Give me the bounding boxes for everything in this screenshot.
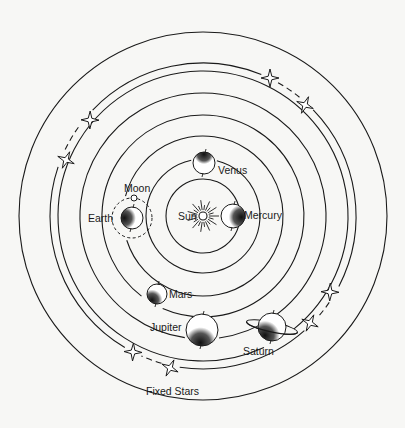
star-icon	[321, 283, 339, 301]
sun-ray	[198, 206, 200, 211]
mars-label: Mars	[169, 288, 192, 300]
fixed-stars-label: Fixed Stars	[146, 385, 199, 397]
saturn-label: Saturn	[243, 345, 274, 357]
sun-ray	[209, 218, 214, 219]
mercury-label: Mercury	[244, 209, 283, 221]
fixed-stars-sphere	[93, 63, 262, 110]
star-icon	[297, 97, 314, 114]
moon-label: Moon	[124, 182, 150, 194]
sun-ray	[204, 205, 205, 210]
fixed-stars-sphere	[313, 110, 356, 287]
star-icon	[162, 360, 178, 376]
moon	[131, 195, 137, 201]
jupiter-label: Jupiter	[150, 321, 182, 333]
planet-mars: Mars	[147, 281, 192, 307]
planet-venus: Venus	[193, 149, 247, 177]
sun-ray	[204, 222, 205, 227]
sun-ray	[198, 221, 200, 226]
sun-ray	[209, 213, 214, 214]
fixed-stars-sphere	[318, 302, 330, 317]
earth-label: Earth	[88, 212, 113, 224]
heliocentric-diagram: Sun Mercury Venus Moon Earth Mars Jupite…	[0, 0, 405, 428]
fixed-stars-sphere	[278, 83, 299, 98]
sun-ray	[207, 221, 210, 225]
sun-label: Sun	[178, 210, 197, 222]
sun-ray	[207, 208, 210, 212]
planet-saturn: Saturn	[243, 310, 298, 357]
planet-mercury: Mercury	[221, 201, 283, 231]
star-icon	[81, 111, 99, 129]
sun-ray	[201, 222, 202, 232]
star-icon	[302, 315, 318, 331]
venus-label: Venus	[218, 164, 247, 176]
fixed-stars-sphere	[65, 124, 80, 149]
sun-ray	[201, 200, 202, 210]
fixed-stars-sphere	[141, 356, 161, 363]
sun: Sun	[178, 200, 219, 232]
planet-jupiter: Jupiter	[150, 311, 218, 349]
planet-earth: Moon Earth	[88, 182, 152, 238]
